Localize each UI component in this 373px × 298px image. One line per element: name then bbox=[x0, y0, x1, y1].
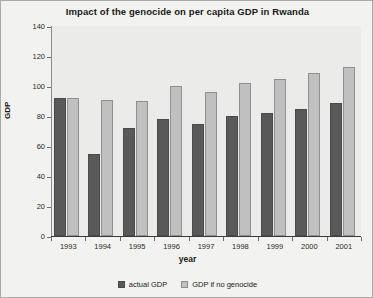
x-axis-tick-label: 1998 bbox=[223, 242, 257, 251]
y-axis-tick-label: 60 bbox=[17, 143, 45, 151]
x-axis-tick bbox=[189, 237, 190, 241]
x-axis-tick bbox=[258, 237, 259, 241]
x-axis-tick bbox=[223, 237, 224, 241]
legend-item[interactable]: GDP if no genocide bbox=[181, 280, 257, 289]
x-axis-tick-label: 1996 bbox=[155, 242, 189, 251]
x-axis-tick bbox=[327, 237, 328, 241]
x-axis-tick bbox=[120, 237, 121, 241]
bar bbox=[226, 116, 238, 236]
bar bbox=[123, 128, 135, 236]
bar-group bbox=[327, 26, 361, 236]
x-axis-tick-label: 1993 bbox=[51, 242, 85, 251]
x-axis-tick bbox=[51, 237, 52, 241]
x-axis-tick-label: 1995 bbox=[120, 242, 154, 251]
bar-group bbox=[120, 26, 154, 236]
bar bbox=[136, 101, 148, 236]
bar bbox=[54, 98, 66, 236]
x-axis-tick bbox=[85, 237, 86, 241]
legend-item[interactable]: actual GDP bbox=[118, 280, 167, 289]
chart-container: Impact of the genocide on per capita GDP… bbox=[0, 0, 373, 298]
y-axis-tick-label: 0 bbox=[17, 233, 45, 241]
x-axis-label: year bbox=[1, 254, 373, 264]
x-axis-tick bbox=[361, 237, 362, 241]
y-axis-label: GDP bbox=[3, 102, 12, 119]
x-axis-tick-label: 2000 bbox=[292, 242, 326, 251]
bar-group bbox=[85, 26, 119, 236]
bar-group bbox=[223, 26, 257, 236]
y-axis-tick-label: 80 bbox=[17, 113, 45, 121]
legend-swatch-icon bbox=[118, 281, 125, 288]
bar bbox=[205, 92, 217, 236]
x-axis-tick bbox=[292, 237, 293, 241]
bar bbox=[101, 100, 113, 237]
bar bbox=[261, 113, 273, 236]
bar bbox=[295, 109, 307, 237]
y-axis-tick-label: 120 bbox=[17, 53, 45, 61]
bar-group bbox=[292, 26, 326, 236]
bar-group bbox=[258, 26, 292, 236]
x-axis-tick-label: 2001 bbox=[327, 242, 361, 251]
y-axis-tick-label: 20 bbox=[17, 203, 45, 211]
bar bbox=[170, 86, 182, 236]
y-axis-tick-label: 100 bbox=[17, 83, 45, 91]
bar bbox=[88, 154, 100, 237]
bar bbox=[308, 73, 320, 237]
x-axis-tick bbox=[154, 237, 155, 241]
bar-group bbox=[154, 26, 188, 236]
bar bbox=[67, 98, 79, 236]
bar bbox=[192, 124, 204, 237]
x-axis-tick-label: 1994 bbox=[86, 242, 120, 251]
x-axis-tick-label: 1999 bbox=[258, 242, 292, 251]
x-axis-tick-label: 1997 bbox=[189, 242, 223, 251]
legend-label: actual GDP bbox=[129, 280, 167, 289]
chart-title: Impact of the genocide on per capita GDP… bbox=[1, 6, 373, 17]
bar-group bbox=[189, 26, 223, 236]
bar bbox=[157, 119, 169, 236]
legend-label: GDP if no genocide bbox=[192, 280, 257, 289]
bar bbox=[330, 103, 342, 237]
bar-group bbox=[51, 26, 85, 236]
plot-area: 020406080100120140 bbox=[51, 26, 361, 237]
y-axis-tick-label: 40 bbox=[17, 173, 45, 181]
bar bbox=[274, 79, 286, 237]
bar bbox=[239, 83, 251, 236]
chart-legend: actual GDPGDP if no genocide bbox=[1, 280, 373, 289]
bar bbox=[343, 67, 355, 237]
y-axis-tick-label: 140 bbox=[17, 23, 45, 31]
legend-swatch-icon bbox=[181, 281, 188, 288]
